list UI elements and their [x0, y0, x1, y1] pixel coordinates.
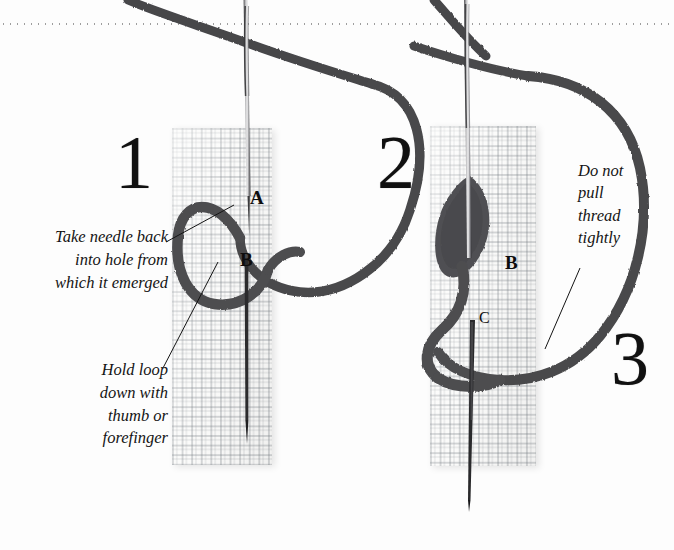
step-number-2: 2 [377, 124, 414, 200]
point-label-b-step2: B [505, 253, 518, 272]
step-number-3: 3 [611, 320, 648, 396]
leader-line-do-not-pull [545, 268, 580, 349]
caption-take-needle-back: Take needle back into hole from which it… [8, 226, 168, 294]
point-label-a-step1: A [250, 188, 264, 207]
point-label-c-step2: C [479, 310, 490, 326]
aida-fabric-swatch-step1 [172, 128, 272, 465]
point-label-b-step1: B [240, 250, 253, 269]
aida-fabric-swatch-step2 [430, 126, 536, 466]
step-number-1: 1 [115, 124, 152, 200]
dotted-divider-line [0, 23, 674, 25]
caption-hold-loop-down: Hold loop down with thumb or forefinger [46, 359, 168, 450]
figure-canvas: 1 2 3 Take needle back into hole from wh… [0, 0, 674, 550]
caption-do-not-pull-thread-tightly: Do not pull thread tightly [578, 160, 664, 250]
